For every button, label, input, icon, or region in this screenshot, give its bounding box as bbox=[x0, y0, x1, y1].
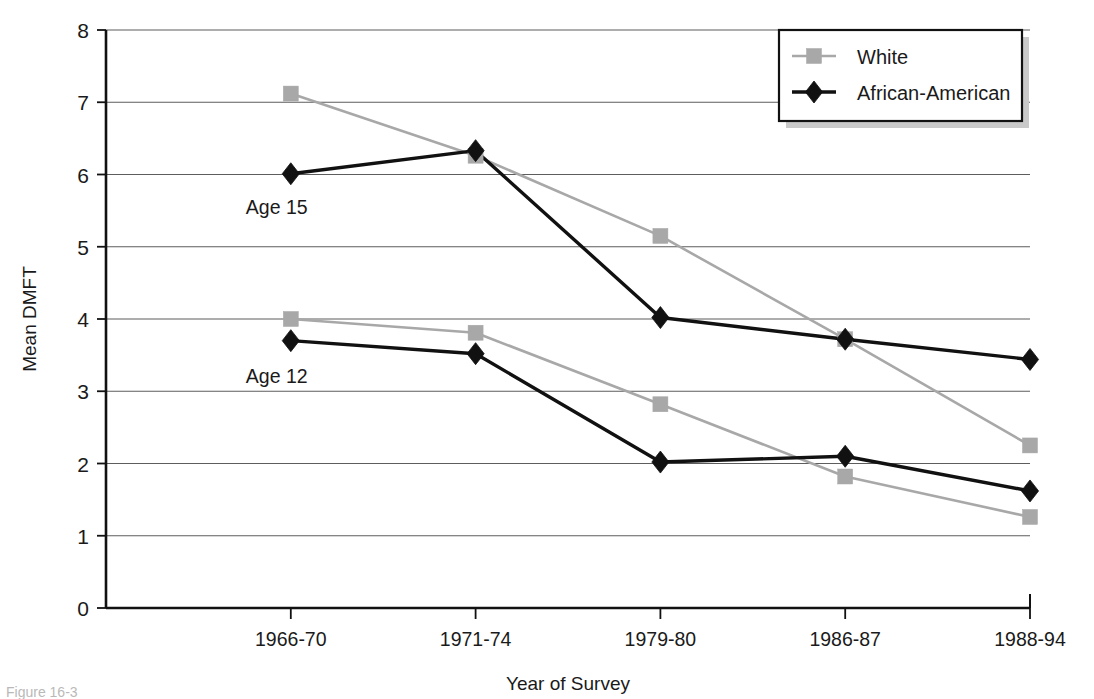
marker-diamond bbox=[1021, 348, 1038, 370]
legend-box bbox=[779, 30, 1022, 121]
y-tick-label: 6 bbox=[77, 164, 89, 187]
y-tick-group: 012345678 bbox=[77, 19, 106, 620]
marker-square bbox=[653, 397, 668, 412]
series-line-white-group-0 bbox=[291, 94, 1030, 446]
legend-label-african-american: African-American bbox=[857, 82, 1010, 104]
marker-square bbox=[283, 312, 298, 327]
annotation-label: Age 15 bbox=[246, 196, 308, 218]
y-axis-title: Mean DMFT bbox=[19, 266, 40, 372]
y-tick-label: 8 bbox=[77, 19, 89, 42]
marker-square bbox=[807, 49, 822, 64]
series-markers-group bbox=[282, 86, 1038, 524]
y-tick-label: 4 bbox=[77, 308, 89, 331]
x-tick-group: 1966-701971-741979-801986-871988-94 bbox=[255, 608, 1066, 650]
legend-label-white: White bbox=[857, 46, 908, 68]
annotation-label: Age 12 bbox=[246, 365, 308, 387]
x-tick-label: 1988-94 bbox=[994, 628, 1066, 650]
marker-diamond bbox=[467, 343, 484, 365]
chart-legend: WhiteAfrican-American bbox=[779, 30, 1029, 128]
marker-diamond bbox=[282, 163, 299, 185]
x-tick-label: 1966-70 bbox=[255, 628, 327, 650]
marker-square bbox=[1023, 438, 1038, 453]
x-axis-title: Year of Survey bbox=[506, 673, 630, 694]
marker-square bbox=[653, 228, 668, 243]
line-chart: 012345678 1966-701971-741979-801986-8719… bbox=[0, 0, 1094, 699]
y-tick-label: 3 bbox=[77, 380, 89, 403]
x-tick-label: 1986-87 bbox=[809, 628, 881, 650]
chart-figure: 012345678 1966-701971-741979-801986-8719… bbox=[0, 0, 1094, 699]
marker-diamond bbox=[282, 330, 299, 352]
y-tick-label: 0 bbox=[77, 597, 89, 620]
figure-caption: Figure 16-3 bbox=[6, 684, 78, 699]
y-tick-label: 2 bbox=[77, 453, 89, 476]
marker-diamond bbox=[652, 451, 669, 473]
y-tick-label: 1 bbox=[77, 525, 89, 548]
x-tick-label: 1971-74 bbox=[440, 628, 512, 650]
marker-square bbox=[468, 325, 483, 340]
y-tick-label: 7 bbox=[77, 91, 89, 114]
caption-cropped-text: Figure 16-3 bbox=[6, 684, 78, 699]
x-tick-label: 1979-80 bbox=[625, 628, 697, 650]
marker-square bbox=[283, 86, 298, 101]
marker-square bbox=[838, 469, 853, 484]
y-tick-label: 5 bbox=[77, 236, 89, 259]
annotations-group: Age 15Age 12 bbox=[246, 196, 308, 386]
marker-square bbox=[1023, 509, 1038, 524]
marker-diamond bbox=[1021, 480, 1038, 502]
